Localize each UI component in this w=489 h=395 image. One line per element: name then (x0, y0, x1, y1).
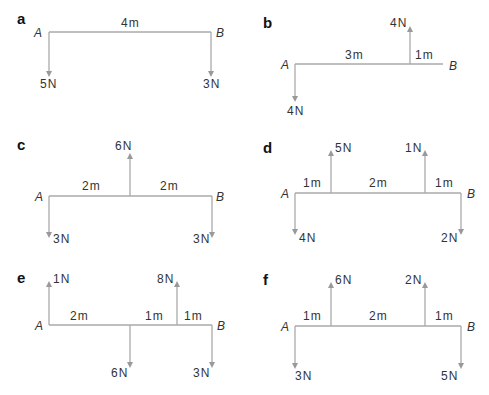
segment-length: 1m (435, 176, 454, 190)
force-magnitude: 5N (335, 141, 352, 155)
force-magnitude: 4N (287, 104, 304, 118)
force-magnitude: 3N (53, 232, 70, 246)
panel-label: d (263, 139, 272, 156)
arrowhead-up-icon (422, 150, 428, 156)
force-magnitude: 1N (53, 272, 70, 286)
force-diagrams: a A B 4m 5N 3N b A B 3m 1m 4N 4N c A B 2… (0, 0, 489, 395)
point-a-label: A (280, 187, 289, 201)
segment-length: 2m (369, 309, 388, 323)
arrowhead-up-icon (46, 281, 52, 287)
panel-label: e (17, 269, 25, 286)
force-magnitude: 3N (193, 366, 210, 380)
point-b-label: B (216, 190, 224, 204)
point-a-label: A (34, 190, 43, 204)
arrowhead-up-icon (127, 153, 133, 159)
arrowhead-up-icon (422, 282, 428, 288)
force-magnitude: 4N (390, 16, 407, 30)
panel-e: e A B 2m 1m 1m 1N 6N 8N 3N (17, 269, 225, 380)
point-a-label: A (280, 58, 289, 72)
segment-length: 1m (303, 176, 322, 190)
segment-length: 1m (303, 309, 322, 323)
point-a-label: A (280, 320, 289, 334)
panel-f: f A B 1m 2m 1m 3N 6N 2N 5N (263, 271, 475, 383)
segment-length: 1m (435, 309, 454, 323)
force-magnitude: 3N (193, 232, 210, 246)
force-magnitude: 4N (299, 231, 316, 245)
point-b-label: B (217, 319, 225, 333)
force-magnitude: 8N (157, 272, 174, 286)
panel-label: b (263, 14, 272, 31)
arrowhead-up-icon (174, 281, 180, 287)
arrowhead-down-icon (292, 96, 298, 102)
point-a-label: A (34, 319, 43, 333)
segment-length: 2m (369, 176, 388, 190)
segment-length: 2m (70, 309, 89, 323)
panel-label: a (17, 10, 26, 27)
arrowhead-down-icon (458, 363, 464, 369)
point-b-label: B (467, 187, 475, 201)
force-magnitude: 3N (203, 77, 220, 91)
force-magnitude: 5N (40, 77, 57, 91)
point-b-label: B (467, 320, 475, 334)
panel-label: c (17, 136, 25, 153)
force-magnitude: 6N (335, 273, 352, 287)
arrowhead-up-icon (407, 26, 413, 32)
force-magnitude: 6N (115, 139, 132, 153)
force-magnitude: 1N (405, 141, 422, 155)
segment-length: 3m (345, 48, 364, 62)
segment-length: 4m (121, 16, 140, 30)
arrowhead-down-icon (292, 229, 298, 235)
segment-length: 1m (184, 309, 203, 323)
arrowhead-up-icon (328, 282, 334, 288)
point-b-label: B (449, 59, 457, 73)
panel-a: a A B 4m 5N 3N (17, 10, 224, 91)
segment-length: 1m (145, 309, 164, 323)
panel-b: b A B 3m 1m 4N 4N (263, 14, 457, 118)
segment-length: 2m (160, 179, 179, 193)
segment-length: 2m (82, 179, 101, 193)
force-magnitude: 5N (441, 369, 458, 383)
arrowhead-up-icon (328, 150, 334, 156)
arrowhead-down-icon (458, 229, 464, 235)
force-magnitude: 2N (441, 231, 458, 245)
force-magnitude: 3N (295, 369, 312, 383)
point-a-label: A (33, 26, 42, 40)
arrowhead-down-icon (46, 232, 52, 238)
force-magnitude: 6N (111, 366, 128, 380)
panel-label: f (263, 271, 269, 288)
force-magnitude: 2N (405, 273, 422, 287)
point-b-label: B (216, 26, 224, 40)
panel-c: c A B 2m 2m 3N 6N 3N (17, 136, 224, 246)
panel-d: d A B 1m 2m 1m 4N 5N 1N 2N (263, 139, 475, 245)
segment-length: 1m (415, 48, 434, 62)
